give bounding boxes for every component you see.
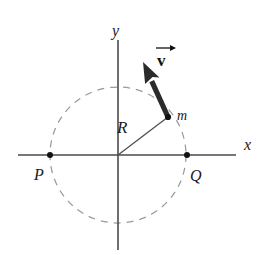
velocity-vector-shaft bbox=[152, 81, 168, 117]
point-p-label: P bbox=[33, 166, 44, 183]
velocity-label-group: v bbox=[156, 45, 176, 70]
circular-motion-figure: y x R m P Q v bbox=[0, 0, 267, 255]
x-axis-label: x bbox=[243, 136, 251, 153]
point-p-dot bbox=[47, 152, 53, 158]
velocity-label-overbar-arrowhead bbox=[170, 45, 176, 51]
point-q-label: Q bbox=[190, 167, 202, 184]
mass-label: m bbox=[177, 108, 187, 123]
velocity-label: v bbox=[157, 51, 166, 70]
radius-label: R bbox=[116, 118, 128, 137]
diagram-canvas: y x R m P Q v bbox=[0, 0, 267, 255]
point-q-dot bbox=[184, 152, 190, 158]
y-axis-label: y bbox=[110, 22, 120, 40]
particle-dot bbox=[165, 114, 171, 120]
